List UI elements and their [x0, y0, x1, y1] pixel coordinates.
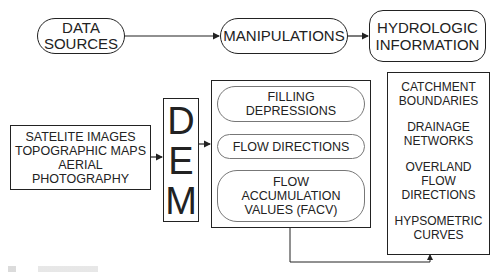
manipulations-node: MANIPULATIONS	[220, 18, 348, 54]
hydrologic-outputs-box: CATCHMENT BOUNDARIES DRAINAGE NETWORKS O…	[387, 72, 490, 255]
output-drainage-networks: DRAINAGE NETWORKS	[388, 120, 489, 148]
data-sources-node: DATA SOURCES	[37, 18, 125, 54]
source-item: SATELITE IMAGES	[25, 130, 135, 144]
output-overland-flow-directions: OVERLAND FLOW DIRECTIONS	[388, 160, 489, 202]
dem-letter: M	[164, 181, 198, 221]
dem-letter: D	[164, 101, 198, 141]
hydrologic-information-node: HYDROLOGIC INFORMATION	[369, 10, 486, 62]
caption-fragment	[8, 266, 98, 272]
source-item: TOPOGRAPHIC MAPS	[15, 144, 146, 158]
step-flow-directions: FLOW DIRECTIONS	[217, 134, 365, 159]
dem-box: D E M	[163, 98, 199, 222]
data-sources-box: SATELITE IMAGES TOPOGRAPHIC MAPS AERIAL …	[10, 125, 151, 190]
step-filling-depressions: FILLING DEPRESSIONS	[217, 86, 365, 122]
step-flow-accumulation: FLOW ACCUMULATION VALUES (FACV)	[217, 170, 365, 222]
output-hypsometric-curves: HYPSOMETRIC CURVES	[388, 214, 489, 242]
output-catchment-boundaries: CATCHMENT BOUNDARIES	[388, 80, 489, 108]
source-item: PHOTOGRAPHY	[32, 172, 129, 186]
source-item: AERIAL	[58, 158, 102, 172]
dem-letter: E	[164, 141, 198, 181]
